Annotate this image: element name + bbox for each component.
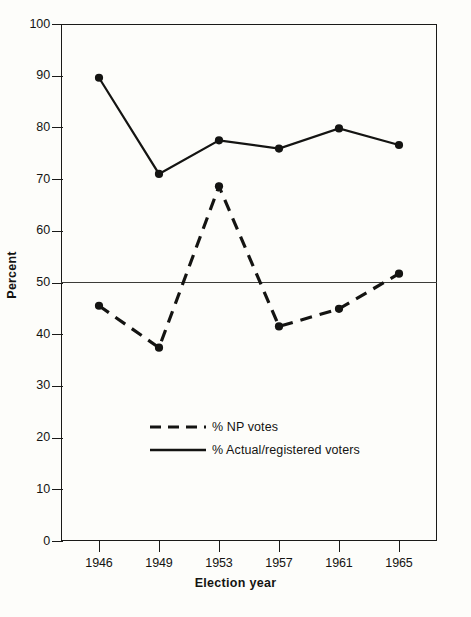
data-point-marker (95, 74, 103, 82)
legend-label-actual-registered-voters: % Actual/registered voters (212, 443, 360, 457)
series-line (99, 78, 399, 174)
series-np-votes (95, 182, 403, 352)
data-point-marker (335, 305, 343, 313)
data-point-marker (275, 322, 283, 330)
legend-key-solid-icon (150, 444, 212, 456)
chart-legend: % NP votes % Actual/registered voters (150, 415, 410, 461)
data-point-marker (215, 182, 223, 190)
data-point-marker (95, 302, 103, 310)
chart-data-layer (0, 0, 471, 617)
data-point-marker (215, 136, 223, 144)
data-point-marker (155, 344, 163, 352)
legend-key-dashed-icon (150, 421, 212, 433)
legend-item-np-votes: % NP votes (150, 415, 410, 438)
series-actual-registered-voters (95, 74, 403, 178)
legend-label-np-votes: % NP votes (212, 420, 278, 434)
data-point-marker (155, 170, 163, 178)
data-point-marker (275, 144, 283, 152)
figure-container: Percent 0102030405060708090100 194619491… (0, 0, 471, 617)
data-point-marker (395, 141, 403, 149)
series-line (99, 186, 399, 347)
legend-item-actual-registered-voters: % Actual/registered voters (150, 438, 410, 461)
data-point-marker (335, 124, 343, 132)
data-point-marker (395, 270, 403, 278)
